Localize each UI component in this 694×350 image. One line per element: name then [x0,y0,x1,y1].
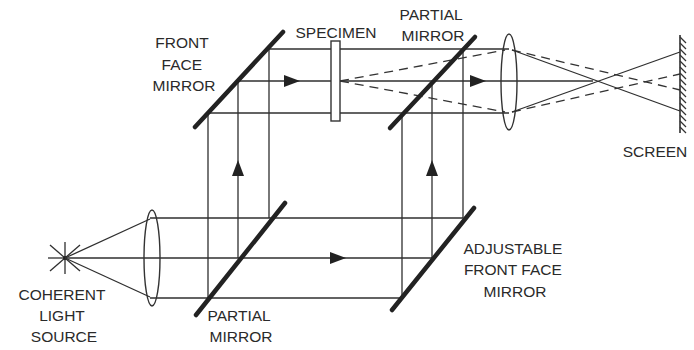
label-partial-mirror-bottom: PARTIAL MIRROR [208,307,275,345]
direction-arrows [232,75,486,264]
label-adjustable-front-face-mirror: ADJUSTABLE FRONT FACE MIRROR [463,240,566,300]
label-screen: SCREEN [623,143,688,160]
arrow-right-icon [330,252,346,264]
screen [680,35,686,133]
label-front-face-mirror: FRONT FACE MIRROR [153,34,216,94]
arrow-right-icon [470,75,486,87]
adjustable-front-face-mirror [392,208,474,310]
arrow-up-icon [426,160,438,176]
arrow-up-icon [232,160,244,176]
label-partial-mirror-top: PARTIAL MIRROR [400,6,467,44]
interferometer-diagram: FRONT FACE MIRROR SPECIMEN PARTIAL MIRRO… [0,0,694,350]
arrow-right-icon [284,75,300,87]
label-specimen: SPECIMEN [296,24,377,41]
specimen [331,41,340,121]
label-coherent-light-source: COHERENT LIGHT SOURCE [18,286,109,345]
